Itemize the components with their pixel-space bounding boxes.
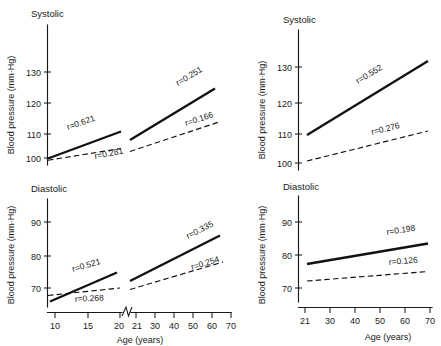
x-tick-label-50-bottom-right: 50 xyxy=(375,316,385,326)
y-tick-label-130-top-left: 130 xyxy=(26,68,41,78)
y-tick-label-120-top-right: 120 xyxy=(277,99,292,109)
trend-dashed-bottom-right xyxy=(307,272,428,282)
axis-break-marker-bottom-left xyxy=(122,307,132,316)
x-tick-label-20: 20 xyxy=(114,321,124,331)
y-tick-label-100-top-right: 100 xyxy=(277,159,292,169)
r-label-0126: r=0.126 xyxy=(388,254,418,267)
x-tick-label-70-bottom-right: 70 xyxy=(425,316,435,326)
x-axis-title-bottom-left: Age (years) xyxy=(117,335,164,345)
y-axis-title-bottom-left: Blood pressure (mm·Hg) xyxy=(6,206,16,305)
panel-title-diastolic-right: Diastolic xyxy=(283,181,319,192)
panel-title-systolic-right: Systolic xyxy=(283,14,316,25)
y-tick-label-70-bottom-right: 70 xyxy=(282,284,292,294)
y-tick-label-70-bottom-left: 70 xyxy=(31,284,41,294)
x-tick-label-50: 50 xyxy=(188,321,198,331)
x-tick-label-40: 40 xyxy=(169,321,179,331)
x-tick-label-21: 21 xyxy=(132,321,142,331)
y-axis-title-top-right: Blood pressure (mm·Hg) xyxy=(257,61,267,160)
y-tick-label-110-top-left: 110 xyxy=(27,130,41,140)
y-axis-title-bottom-right: Blood pressure (mm·Hg) xyxy=(257,206,267,305)
r-label-0198: r=0.198 xyxy=(386,223,417,237)
r-label-0268: r=0.268 xyxy=(75,292,105,304)
x-tick-label-30: 30 xyxy=(150,321,160,331)
r-label-0621: r=0.621 xyxy=(65,113,96,132)
y-tick-label-100-top-left: 100 xyxy=(26,154,41,164)
y-tick-label-110-top-right: 110 xyxy=(278,130,292,140)
y-tick-label-130-top-right: 130 xyxy=(277,63,292,73)
y-tick-label-80-bottom-right: 80 xyxy=(282,251,292,261)
x-tick-label-10: 10 xyxy=(50,321,60,331)
x-tick-label-40-bottom-right: 40 xyxy=(350,316,360,326)
y-tick-label-120-top-left: 120 xyxy=(26,99,41,109)
r-label-0281: r=0.281 xyxy=(93,146,124,161)
panel-top-right: Systolic Blood pressure (mm·Hg) 130 120 … xyxy=(257,14,428,170)
r-label-0552: r=0.552 xyxy=(354,62,384,86)
r-label-0521: r=0.521 xyxy=(71,256,102,274)
x-tick-label-70: 70 xyxy=(226,321,236,331)
panel-bottom-right: Diastolic Blood pressure (mm·Hg) 90 80 7… xyxy=(257,181,435,342)
x-tick-label-60-bottom-right: 60 xyxy=(400,316,410,326)
y-axis-title-top-left: Blood pressure (mm·Hg) xyxy=(6,56,16,155)
r-label-0166: r=0.166 xyxy=(184,109,215,128)
y-tick-label-90-bottom-right: 90 xyxy=(282,218,292,228)
r-label-0335: r=0.335 xyxy=(184,219,215,241)
r-label-0251: r=0.251 xyxy=(174,64,204,88)
x-tick-label-21-bottom-right: 21 xyxy=(300,316,310,326)
x-axis-title-bottom-right: Age (years) xyxy=(365,332,412,342)
r-label-0276: r=0.276 xyxy=(370,120,401,137)
trend-dashed-adult-top-left xyxy=(130,122,219,152)
x-tick-label-60: 60 xyxy=(207,321,217,331)
x-tick-label-15: 15 xyxy=(83,321,93,331)
panel-top-left: Systolic Blood pressure (mm·Hg) 130 120 … xyxy=(6,8,219,165)
panel-bottom-left: Diastolic Blood pressure (mm·Hg) 90 80 7… xyxy=(6,183,236,345)
y-tick-label-80-bottom-left: 80 xyxy=(31,252,41,262)
y-tick-label-90-bottom-left: 90 xyxy=(31,218,41,228)
panel-title-diastolic-left: Diastolic xyxy=(31,183,67,194)
trend-dashed-top-right xyxy=(307,131,428,161)
panel-title-systolic-left: Systolic xyxy=(31,8,64,19)
x-tick-label-30-bottom-right: 30 xyxy=(325,316,335,326)
blood-pressure-age-figure: Systolic Blood pressure (mm·Hg) 130 120 … xyxy=(0,0,441,346)
r-label-0254: r=0.254 xyxy=(190,254,221,272)
